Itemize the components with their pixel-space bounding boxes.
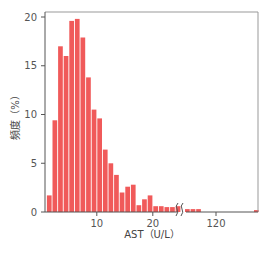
y-tick-label: 20 [24,12,37,23]
y-axis: 05101520 [24,12,45,218]
histogram-bar [69,21,74,212]
histogram-bar [92,110,97,212]
histogram-bar [125,187,130,212]
y-tick-label: 10 [24,109,37,120]
histogram-bar [120,193,125,213]
histogram-bar [81,38,86,213]
x-tick-label: 20 [146,218,159,229]
histogram-bar [159,206,164,212]
x-tick-label: 10 [90,218,103,229]
y-tick-label: 5 [31,158,37,169]
bars-group [47,19,259,212]
histogram-bar [153,206,158,212]
histogram-bar [47,195,52,212]
histogram-chart: 05101520 1020120 頻度（%） AST（U/L） [0,0,271,253]
histogram-bar [103,150,108,212]
histogram-bar [53,120,58,212]
histogram-bar [75,19,80,212]
x-axis: 1020120 [90,212,225,229]
y-axis-label: 頻度（%） [9,90,21,140]
y-tick-label: 0 [31,207,37,218]
y-tick-label: 15 [24,60,37,71]
histogram-bar [58,46,63,212]
histogram-bar [86,77,91,212]
histogram-bar [137,205,142,212]
x-tick-label: 120 [206,218,225,229]
histogram-bar [114,175,119,212]
histogram-bar [64,56,69,212]
histogram-bar [148,195,153,212]
histogram-bar [165,207,170,212]
histogram-bar [170,207,175,212]
x-axis-label: AST（U/L） [124,229,180,240]
histogram-bar [97,118,102,212]
histogram-bar [109,163,114,212]
histogram-bar [131,185,136,212]
histogram-bar [142,199,147,212]
